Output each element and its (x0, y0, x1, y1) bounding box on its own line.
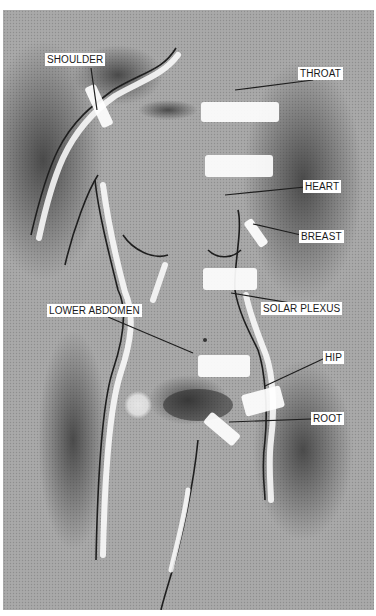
label-solar-plexus: SOLAR PLEXUS (261, 302, 342, 315)
pelvis-shade (163, 389, 233, 421)
label-lower-abdomen: LOWER ABDOMEN (47, 304, 142, 317)
label-heart: HEART (303, 180, 341, 193)
body-diagram-figure: SHOULDERTHROATHEARTBREASTSOLAR PLEXUSLOW… (3, 10, 374, 610)
throat-highlight-mark (201, 102, 279, 122)
heart-highlight-mark (205, 155, 273, 177)
label-breast: BREAST (299, 230, 344, 243)
navel (203, 338, 207, 342)
solar-plexus-highlight-mark (203, 268, 257, 290)
label-shoulder: SHOULDER (45, 53, 105, 66)
label-throat: THROAT (298, 67, 343, 80)
label-root: ROOT (311, 412, 344, 425)
label-hip: HIP (323, 351, 344, 364)
lower-abdomen-highlight-mark (198, 355, 250, 377)
hand-glow (124, 391, 152, 419)
